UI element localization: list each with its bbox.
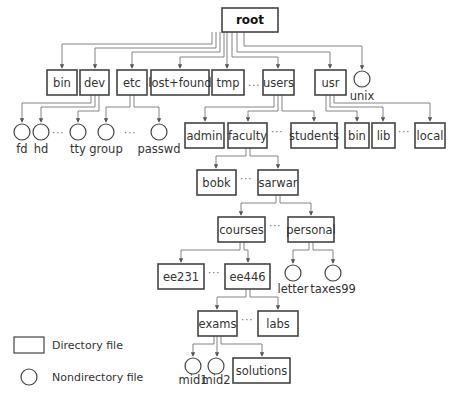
file-circle (98, 124, 114, 140)
ellipsis-marker: ··· (208, 267, 221, 278)
ellipsis-marker: ... (248, 77, 261, 88)
edge-ee446-to-labs (250, 289, 278, 309)
edge-faculty-to-bobk (216, 148, 246, 168)
edge-courses-to-ee231 (181, 242, 240, 262)
directory-node-lost_found: lost+found (148, 70, 211, 95)
node-label: tmp (216, 76, 239, 90)
node-label: labs (266, 317, 290, 331)
directory-node-lib: lib (372, 123, 395, 148)
edge-sarwar-to-courses (241, 195, 276, 215)
file-circle (70, 124, 86, 140)
file-node-passwd: passwd (137, 124, 180, 156)
directory-node-local: local (415, 123, 445, 148)
edge-exams-to-mid1 (193, 336, 214, 356)
node-label: lost+found (148, 76, 211, 90)
legend-directory-symbol (14, 337, 44, 353)
node-label: faculty (228, 129, 267, 143)
file-node-mid2: mid2 (201, 358, 230, 387)
directory-node-ee446: ee446 (225, 264, 270, 289)
node-label: dev (84, 76, 105, 90)
file-circle (14, 124, 30, 140)
file-circle (285, 265, 301, 281)
node-label: ee446 (229, 270, 265, 284)
ellipsis-marker: ··· (240, 173, 253, 184)
directory-node-usr_bin: bin (345, 123, 369, 148)
file-circle (151, 124, 167, 140)
node-label: students (289, 129, 339, 143)
directory-node-bobk: bobk (197, 170, 236, 195)
file-node-letter: letter (277, 265, 308, 296)
node-label: passwd (137, 142, 180, 156)
edge-root-to-usr (237, 32, 330, 68)
directory-node-faculty: faculty (228, 123, 267, 148)
node-label: usr (321, 76, 339, 90)
edge-root-to-bin (62, 32, 212, 68)
directory-node-bin: bin (47, 70, 77, 95)
node-label: etc (123, 76, 141, 90)
node-label: ee231 (163, 270, 199, 284)
node-label: courses (219, 223, 263, 237)
directory-node-personal: personal (286, 217, 336, 242)
legend-file-label: Nondirectory file (52, 371, 144, 384)
node-label: local (417, 129, 444, 143)
node-label: hd (34, 142, 49, 156)
directory-node-etc: etc (117, 70, 147, 95)
legend: Directory file Nondirectory file (14, 337, 144, 385)
file-node-hd: hd (33, 124, 49, 156)
directory-node-dev: dev (80, 70, 109, 95)
edge-users-to-admin (205, 95, 274, 121)
file-circle (208, 358, 224, 374)
directory-node-admin: admin (185, 123, 224, 148)
edge-root-to-dev (95, 32, 216, 68)
file-node-taxes99: taxes99 (310, 265, 356, 296)
edge-root-to-lost_found (180, 32, 224, 68)
file-node-group: group (89, 124, 122, 156)
edge-usr-to-local (334, 95, 430, 121)
edge-courses-to-ee446 (244, 242, 248, 262)
directory-node-students: students (289, 123, 339, 148)
ellipsis-marker: ··· (124, 127, 137, 138)
directory-node-root: root (222, 8, 278, 32)
node-label: exams (199, 317, 237, 331)
node-label: taxes99 (310, 282, 356, 296)
file-node-tty: tty (70, 124, 86, 156)
legend-directory-label: Directory file (52, 339, 123, 352)
node-label: fd (16, 142, 27, 156)
node-label: users (263, 76, 294, 90)
node-label: admin (186, 129, 222, 143)
edge-personal-to-letter (293, 242, 309, 263)
directory-node-exams: exams (198, 311, 237, 336)
directory-node-usr: usr (315, 70, 346, 95)
directory-node-ee231: ee231 (158, 264, 204, 289)
directory-node-labs: labs (258, 311, 298, 336)
edge-dev-to-fd (22, 95, 91, 122)
file-system-tree-diagram: rootbindevetclost+foundtmpusersusrunixfd… (0, 0, 460, 402)
edge-root-to-users (232, 32, 278, 68)
edge-users-to-faculty (248, 95, 278, 121)
node-label: letter (277, 282, 308, 296)
file-node-fd: fd (14, 124, 30, 156)
edge-dev-to-tty (78, 95, 99, 122)
edge-etc-to-group (106, 95, 130, 122)
nodes: rootbindevetclost+foundtmpusersusrunixfd… (14, 8, 445, 387)
legend-file-symbol (21, 369, 37, 385)
ellipsis-marker: ··· (52, 127, 65, 138)
directory-node-courses: courses (218, 217, 265, 242)
node-label: group (89, 142, 122, 156)
directory-node-tmp: tmp (212, 70, 244, 95)
node-label: personal (286, 223, 336, 237)
node-label: mid2 (201, 373, 230, 387)
ellipsis-marker: ··· (269, 220, 282, 231)
edge-root-to-etc (132, 32, 220, 68)
directory-node-solutions: solutions (233, 358, 290, 383)
edge-personal-to-taxes99 (313, 242, 333, 263)
directory-node-sarwar: sarwar (258, 170, 298, 195)
edge-exams-to-solutions (221, 336, 262, 356)
node-label: solutions (236, 364, 288, 378)
edge-faculty-to-sarwar (250, 148, 278, 168)
file-circle (33, 124, 49, 140)
node-label: bin (348, 129, 366, 143)
file-circle (185, 358, 201, 374)
edge-root-to-unix (244, 32, 362, 69)
edge-sarwar-to-personal (280, 195, 311, 215)
